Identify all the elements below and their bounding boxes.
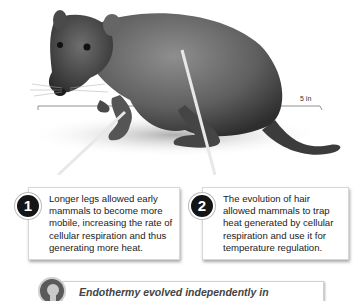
lightbulb-icon — [38, 277, 66, 301]
callout-hair: The evolution of hair allowed mammals to… — [202, 187, 349, 260]
note-box: Endothermy evolved independently in — [62, 281, 324, 301]
note-text: Endothermy evolved independently in — [79, 286, 269, 298]
callout-legs: Longer legs allowed early mammals to bec… — [28, 187, 180, 260]
mammal-illustration — [0, 0, 355, 175]
callout-1-text: Longer legs allowed early mammals to bec… — [49, 193, 172, 253]
number-badge-2: 2 — [189, 193, 215, 219]
scale-bar-label: 5 in — [300, 95, 311, 102]
number-badge-1: 1 — [15, 193, 41, 219]
callout-2-text: The evolution of hair allowed mammals to… — [223, 193, 333, 253]
